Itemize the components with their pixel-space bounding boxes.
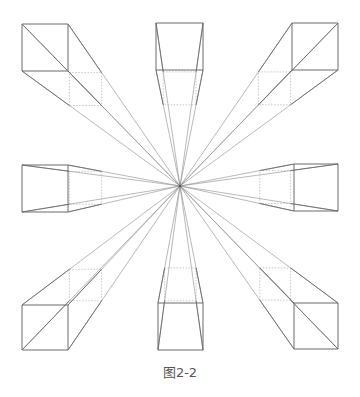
depth-edge — [291, 23, 338, 72]
depth-edge — [196, 23, 203, 72]
depth-edge — [260, 268, 294, 303]
cube-top-center — [156, 23, 203, 105]
depth-edge — [196, 70, 203, 105]
depth-edge — [68, 24, 102, 73]
depth-edge — [260, 204, 294, 212]
depth-edge — [68, 71, 102, 106]
cube-middle-left — [22, 165, 102, 212]
depth-edge — [258, 70, 292, 105]
perspective-cubes-diagram — [0, 0, 360, 397]
depth-edge — [291, 164, 338, 171]
depth-edge — [22, 204, 69, 212]
depth-edge — [291, 268, 338, 303]
depth-edge — [22, 301, 69, 350]
depth-edge — [156, 23, 163, 72]
cube-bottom-right — [260, 268, 338, 349]
depth-edge — [158, 268, 165, 303]
depth-edge — [22, 24, 69, 73]
depth-edge — [260, 164, 294, 171]
cube-bottom-left — [22, 269, 102, 350]
depth-edge — [22, 71, 69, 106]
cube-middle-right — [260, 164, 338, 211]
depth-edge — [291, 204, 338, 212]
depth-edge — [22, 165, 69, 171]
depth-edge — [68, 301, 102, 350]
depth-edge — [260, 300, 294, 349]
vanishing-point — [179, 185, 181, 187]
depth-edge — [258, 23, 292, 72]
cube-top-left — [22, 24, 102, 106]
depth-edge — [68, 204, 102, 212]
depth-edge — [68, 165, 102, 171]
depth-edge — [158, 301, 165, 350]
depth-edge — [68, 269, 102, 305]
cube-bottom-center — [158, 268, 203, 350]
depth-edge — [22, 269, 69, 305]
depth-edge — [196, 268, 203, 303]
depth-edge — [156, 70, 163, 105]
figure-caption: 图2-2 — [0, 362, 360, 381]
depth-edge — [291, 300, 338, 349]
depth-edge — [196, 301, 203, 350]
cube-top-right — [258, 23, 338, 105]
depth-edge — [291, 70, 338, 105]
